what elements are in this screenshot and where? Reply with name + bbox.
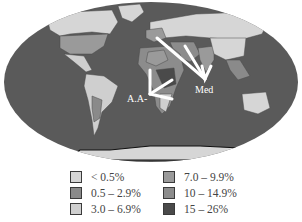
world-map: Med A.A- bbox=[0, 0, 302, 165]
legend-item: < 0.5% bbox=[70, 170, 124, 184]
legend-label: < 0.5% bbox=[91, 171, 124, 183]
legend-swatch bbox=[163, 203, 175, 215]
legend-item: 0.5 – 2.9% bbox=[70, 186, 141, 200]
legend-label: 0.5 – 2.9% bbox=[91, 187, 141, 199]
legend-label: 3.0 – 6.9% bbox=[91, 203, 141, 215]
legend-label: 15 – 26% bbox=[184, 203, 228, 215]
legend-item: 7.0 – 9.9% bbox=[163, 170, 234, 184]
legend-item: 15 – 26% bbox=[163, 202, 228, 216]
label-aa: A.A- bbox=[127, 93, 147, 104]
legend-item: 3.0 – 6.9% bbox=[70, 202, 141, 216]
legend: < 0.5% 0.5 – 2.9% 3.0 – 6.9% 7.0 – 9.9% … bbox=[70, 170, 300, 220]
legend-label: 10 – 14.9% bbox=[184, 187, 237, 199]
legend-swatch bbox=[163, 187, 175, 199]
legend-swatch bbox=[70, 203, 82, 215]
label-med: Med bbox=[195, 84, 213, 95]
legend-swatch bbox=[70, 171, 82, 183]
region-canada bbox=[48, 10, 118, 36]
legend-swatch bbox=[163, 171, 175, 183]
legend-swatch bbox=[70, 187, 82, 199]
legend-item: 10 – 14.9% bbox=[163, 186, 237, 200]
legend-label: 7.0 – 9.9% bbox=[184, 171, 234, 183]
world-map-svg: Med A.A- bbox=[0, 0, 302, 165]
